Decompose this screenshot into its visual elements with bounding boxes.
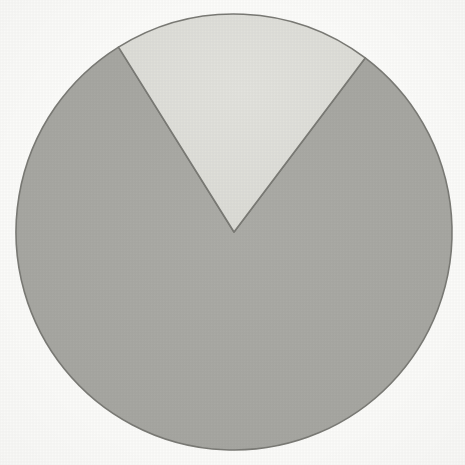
pie-chart-figure: Segment 1 81% Segment 2 19% (0, 0, 465, 465)
pie-slices-group (16, 14, 452, 450)
pie-chart-svg (0, 0, 465, 465)
